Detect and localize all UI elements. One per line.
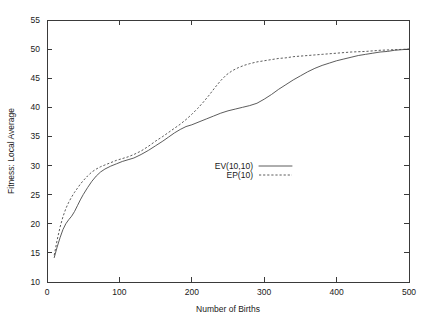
y-tick-label: 45 <box>31 73 41 83</box>
plot-frame <box>47 20 409 282</box>
y-tick-label: 15 <box>31 248 41 258</box>
y-axis-label: Fitness: Local Average <box>6 108 16 194</box>
y-axis-ticks: 10152025303540455055 <box>31 15 409 287</box>
x-axis-label: Number of Births <box>196 304 260 314</box>
y-tick-label: 30 <box>31 161 41 171</box>
y-tick-label: 55 <box>31 15 41 25</box>
x-tick-label: 500 <box>402 287 416 297</box>
chart-legend: EV(10,10) EP(10) <box>215 161 292 180</box>
legend-label-ep: EP(10) <box>227 170 254 180</box>
x-tick-label: 200 <box>185 287 199 297</box>
series-line-ep <box>54 49 409 255</box>
y-tick-label: 25 <box>31 190 41 200</box>
x-tick-label: 100 <box>112 287 126 297</box>
x-tick-label: 0 <box>45 287 50 297</box>
y-tick-label: 20 <box>31 219 41 229</box>
chart-container: 10152025303540455055 0100200300400500 Nu… <box>0 0 438 321</box>
y-tick-label: 40 <box>31 102 41 112</box>
y-tick-label: 50 <box>31 44 41 54</box>
x-tick-label: 400 <box>330 287 344 297</box>
series-line-ev <box>54 49 409 257</box>
x-axis-ticks: 0100200300400500 <box>45 20 417 297</box>
y-tick-label: 35 <box>31 131 41 141</box>
fitness-line-chart: 10152025303540455055 0100200300400500 Nu… <box>0 0 438 321</box>
x-tick-label: 300 <box>257 287 271 297</box>
y-tick-label: 10 <box>31 277 41 287</box>
